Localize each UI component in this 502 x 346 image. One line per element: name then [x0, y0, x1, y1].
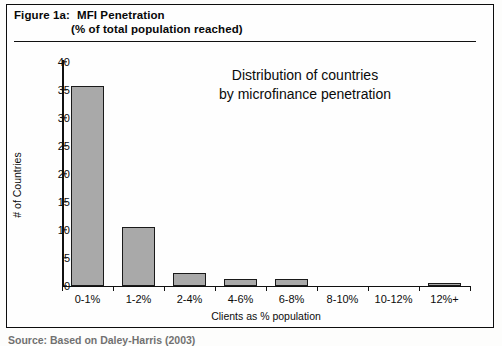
x-axis-tick-mark	[368, 286, 369, 291]
bar[interactable]	[173, 273, 206, 286]
x-axis-tick-mark	[113, 286, 114, 291]
bar[interactable]	[275, 279, 308, 286]
x-axis-tick-mark	[266, 286, 267, 291]
bar[interactable]	[71, 86, 104, 286]
bar-slot	[266, 62, 317, 286]
source-note: Source: Based on Daley-Harris (2003)	[8, 334, 195, 346]
bar[interactable]	[122, 227, 155, 286]
x-axis-tick-mark	[164, 286, 165, 291]
bar[interactable]	[428, 283, 461, 286]
bar-series	[62, 62, 470, 286]
bar-slot	[419, 62, 470, 286]
bar-slot	[113, 62, 164, 286]
x-axis-tick-mark	[215, 286, 216, 291]
x-axis-tick-mark	[470, 286, 471, 291]
x-axis-tick-label: 10-12%	[375, 293, 413, 305]
bar-slot	[164, 62, 215, 286]
bar-slot	[215, 62, 266, 286]
x-axis-tick-label: 0-1%	[75, 293, 101, 305]
x-axis-tick-label: 12%+	[430, 293, 458, 305]
bar-slot	[62, 62, 113, 286]
x-axis-tick-label: 6-8%	[279, 293, 305, 305]
x-axis-tick-mark	[62, 286, 63, 291]
x-axis-tick-mark	[317, 286, 318, 291]
x-axis-tick-label: 8-10%	[327, 293, 359, 305]
x-axis-tick-label: 2-4%	[177, 293, 203, 305]
x-axis-title: Clients as % population	[211, 310, 321, 322]
x-axis-tick-label: 4-6%	[228, 293, 254, 305]
x-axis-tick-label: 1-2%	[126, 293, 152, 305]
y-axis-title: # of Countries	[11, 152, 23, 217]
chart-plot-area: Distribution of countries by microfinanc…	[0, 0, 502, 346]
bar-slot	[368, 62, 419, 286]
bar-slot	[317, 62, 368, 286]
bar[interactable]	[224, 279, 257, 286]
x-axis-tick-mark	[419, 286, 420, 291]
